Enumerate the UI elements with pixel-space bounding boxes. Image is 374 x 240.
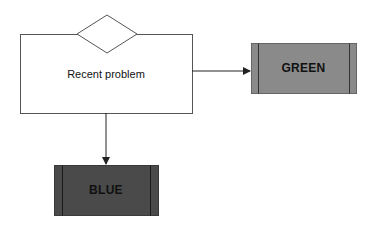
recent-problem-label: Recent problem bbox=[20, 68, 192, 80]
green-label: GREEN bbox=[251, 61, 356, 75]
blue-label: BLUE bbox=[54, 183, 158, 197]
